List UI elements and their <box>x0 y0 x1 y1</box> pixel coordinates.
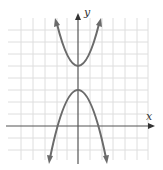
y-axis-label: y <box>84 6 90 19</box>
arrow-lower-right-icon <box>103 155 109 164</box>
y-axis-arrow-icon <box>75 13 81 20</box>
graph <box>0 0 163 170</box>
x-axis-arrow-icon <box>148 123 155 129</box>
arrow-upper-right-icon <box>96 18 102 27</box>
x-axis-label: x <box>146 110 152 123</box>
arrow-lower-left-icon <box>47 155 53 164</box>
